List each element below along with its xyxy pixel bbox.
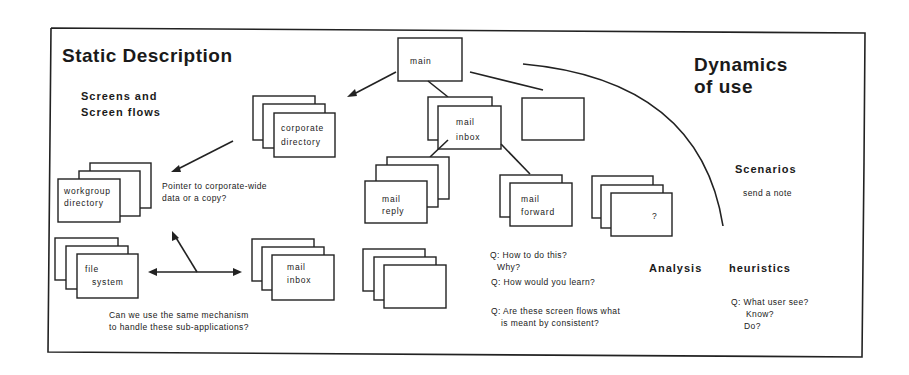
q-how-line2: Why?	[497, 262, 520, 272]
svg-text:mail: mail	[456, 117, 475, 127]
screen-main[interactable]: main	[398, 38, 462, 81]
arrow-up-to-workgroup	[175, 236, 197, 272]
q-learn: Q: How would you learn?	[491, 277, 595, 287]
screen-corporate-directory[interactable]: corporate directory	[253, 96, 335, 157]
mechanism-note-line2: to handle these sub-applications?	[109, 322, 249, 332]
dynamics-title-line1: Dynamics	[694, 54, 788, 75]
svg-text:directory: directory	[281, 137, 321, 147]
svg-text:mail: mail	[521, 194, 540, 204]
heuristics-label: heuristics	[729, 262, 791, 274]
q-how-line1: Q: How to do this?	[490, 250, 567, 260]
screen-mail-inbox-bottom[interactable]: mail inbox	[252, 239, 334, 300]
send-note-label: send a note	[743, 188, 792, 198]
dynamics-title-line2: of use	[694, 76, 753, 97]
svg-text:mail: mail	[287, 262, 306, 272]
scenarios-label: Scenarios	[735, 163, 797, 175]
screen-mail-reply[interactable]: mail reply	[365, 157, 449, 223]
arrowhead	[148, 268, 157, 276]
q-consistent-line1: Q: Are these screen flows what	[491, 306, 620, 316]
svg-text:reply: reply	[382, 206, 404, 216]
q-user-line2: Know?	[746, 309, 774, 319]
static-description-title: Static Description	[62, 45, 233, 66]
screen-file-system[interactable]: file system	[55, 238, 138, 298]
connector-main-to-blank	[470, 72, 543, 90]
arrowhead	[171, 165, 181, 172]
screen-blank-bottom[interactable]	[363, 249, 446, 308]
arrowhead	[233, 268, 242, 276]
q-user-line3: Do?	[744, 321, 761, 331]
arrow-main-to-corporate	[352, 72, 396, 95]
pointer-note-line2: data or a copy?	[162, 193, 227, 203]
svg-text:directory: directory	[64, 198, 104, 208]
pointer-note-line1: Pointer to corporate-wide	[162, 181, 267, 191]
svg-text:forward: forward	[521, 207, 555, 217]
diagram-canvas: Static Description Dynamics of use Scree…	[0, 0, 909, 375]
svg-text:system: system	[92, 277, 124, 287]
q-user-line1: Q: What user see?	[731, 297, 809, 307]
screens-subtitle-line2: Screen flows	[81, 106, 161, 118]
q-consistent-line2: is meant by consistent?	[501, 318, 599, 328]
screen-workgroup-directory[interactable]: workgroup directory	[58, 163, 151, 222]
arrowhead	[347, 89, 357, 97]
svg-text:?: ?	[652, 211, 658, 221]
svg-text:inbox: inbox	[287, 275, 311, 285]
svg-text:corporate: corporate	[281, 123, 324, 133]
screen-unknown[interactable]: ?	[592, 176, 672, 236]
mechanism-note-line1: Can we use the same mechanism	[109, 310, 249, 320]
analysis-label: Analysis	[649, 262, 702, 274]
svg-text:workgroup: workgroup	[63, 186, 111, 196]
screen-mail-inbox-top[interactable]: mail inbox	[428, 97, 501, 149]
arrow-corporate-to-workgroup	[176, 141, 233, 170]
screen-mail-forward[interactable]: mail forward	[500, 175, 572, 226]
screen-blank-top[interactable]	[522, 98, 584, 140]
screens-subtitle-line1: Screens and	[81, 90, 157, 102]
svg-text:file: file	[85, 264, 99, 274]
svg-text:inbox: inbox	[456, 132, 480, 142]
svg-text:mail: mail	[382, 194, 401, 204]
svg-text:main: main	[410, 56, 432, 66]
connector-inbox-to-forward	[501, 144, 530, 174]
connector-main-to-inbox	[428, 81, 448, 97]
